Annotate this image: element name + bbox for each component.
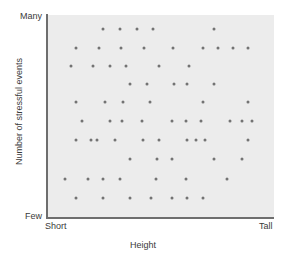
data-point bbox=[155, 178, 158, 181]
data-point bbox=[136, 28, 139, 31]
data-point bbox=[188, 64, 191, 67]
data-point bbox=[171, 196, 174, 199]
data-point bbox=[200, 119, 203, 122]
data-point bbox=[148, 101, 151, 104]
data-point bbox=[89, 139, 92, 142]
data-point bbox=[173, 83, 176, 86]
y-axis-title: Number of stressful events bbox=[15, 10, 24, 213]
data-point bbox=[119, 47, 122, 50]
data-point bbox=[129, 83, 132, 86]
data-point bbox=[124, 64, 127, 67]
data-point bbox=[247, 139, 250, 142]
data-point bbox=[152, 28, 155, 31]
data-point bbox=[171, 157, 174, 160]
data-point bbox=[119, 28, 122, 31]
data-point bbox=[247, 47, 250, 50]
y-axis-line bbox=[46, 14, 48, 219]
data-point bbox=[75, 139, 78, 142]
scatter-plot-figure: Many Few Short Tall Height Number of str… bbox=[0, 0, 286, 259]
data-point bbox=[202, 196, 205, 199]
data-point bbox=[98, 47, 101, 50]
data-point bbox=[101, 28, 104, 31]
data-point bbox=[75, 47, 78, 50]
data-point bbox=[75, 196, 78, 199]
data-point bbox=[202, 101, 205, 104]
data-point bbox=[185, 196, 188, 199]
data-point bbox=[119, 178, 122, 181]
data-point bbox=[202, 47, 205, 50]
data-point bbox=[96, 139, 99, 142]
x-axis-tick-label-short: Short bbox=[45, 222, 67, 231]
data-point bbox=[195, 139, 198, 142]
data-point bbox=[247, 101, 250, 104]
data-point bbox=[185, 83, 188, 86]
data-point bbox=[87, 178, 90, 181]
data-point bbox=[91, 64, 94, 67]
data-point bbox=[155, 157, 158, 160]
y-axis-tick-label-few: Few bbox=[25, 212, 42, 221]
data-point bbox=[129, 196, 132, 199]
data-point bbox=[232, 47, 235, 50]
data-point bbox=[213, 157, 216, 160]
data-point bbox=[240, 157, 243, 160]
data-point bbox=[171, 119, 174, 122]
data-point bbox=[185, 119, 188, 122]
x-axis-title: Height bbox=[0, 241, 286, 250]
data-point bbox=[225, 178, 228, 181]
data-point bbox=[101, 196, 104, 199]
data-point bbox=[228, 119, 231, 122]
data-point bbox=[213, 28, 216, 31]
data-point bbox=[120, 119, 123, 122]
data-point bbox=[157, 64, 160, 67]
data-point bbox=[150, 196, 153, 199]
data-point bbox=[103, 101, 106, 104]
data-point bbox=[141, 119, 144, 122]
data-point bbox=[108, 64, 111, 67]
data-point bbox=[143, 47, 146, 50]
data-point bbox=[185, 139, 188, 142]
data-point bbox=[75, 101, 78, 104]
data-point bbox=[70, 64, 73, 67]
data-point bbox=[145, 83, 148, 86]
data-point bbox=[251, 119, 254, 122]
data-point bbox=[141, 139, 144, 142]
data-point bbox=[157, 139, 160, 142]
x-axis-line bbox=[46, 217, 274, 219]
plot-area bbox=[48, 15, 274, 218]
data-point bbox=[129, 157, 132, 160]
data-point bbox=[171, 47, 174, 50]
data-point bbox=[122, 101, 125, 104]
data-point bbox=[213, 83, 216, 86]
data-point bbox=[204, 139, 207, 142]
data-point bbox=[63, 178, 66, 181]
data-point bbox=[108, 119, 111, 122]
data-point bbox=[185, 178, 188, 181]
x-axis-tick-label-tall: Tall bbox=[259, 222, 273, 231]
data-point bbox=[216, 47, 219, 50]
data-point bbox=[101, 178, 104, 181]
data-point bbox=[240, 119, 243, 122]
data-point bbox=[113, 139, 116, 142]
data-point bbox=[80, 119, 83, 122]
